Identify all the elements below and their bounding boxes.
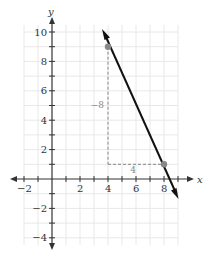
grid bbox=[24, 25, 178, 245]
x-axis-right-arrow-icon bbox=[187, 176, 194, 182]
x-axis-left-arrow-icon bbox=[10, 176, 17, 182]
line-series bbox=[102, 29, 179, 199]
y-tick-label: 2 bbox=[41, 144, 47, 155]
rise-label: −8 bbox=[91, 100, 105, 110]
data-point bbox=[161, 161, 167, 167]
y-tick-label: 6 bbox=[41, 85, 47, 96]
line-up-arrow-icon bbox=[102, 29, 110, 40]
y-axis-down-arrow-icon bbox=[49, 243, 55, 250]
y-tick-label: 4 bbox=[41, 115, 47, 126]
y-tick-label: −2 bbox=[32, 203, 47, 214]
run-label: 4 bbox=[130, 165, 136, 175]
y-axis: y 10 8 6 4 2 −2 −4 bbox=[32, 6, 55, 250]
y-tick-label: −4 bbox=[32, 232, 47, 243]
data-point bbox=[105, 44, 111, 50]
x-tick-label: 4 bbox=[105, 183, 111, 194]
x-tick-label: 2 bbox=[77, 183, 83, 194]
x-tick-label: −2 bbox=[17, 183, 32, 194]
x-tick-label: 6 bbox=[133, 183, 139, 194]
y-axis-up-arrow-icon bbox=[49, 17, 55, 24]
y-tick-label: 8 bbox=[41, 56, 47, 67]
coordinate-plane: x −2 2 4 6 8 y 10 8 6 4 bbox=[0, 0, 211, 254]
x-axis-label: x bbox=[197, 174, 203, 185]
y-axis-label: y bbox=[47, 6, 54, 17]
y-tick-label: 10 bbox=[34, 27, 47, 38]
x-tick-label: 8 bbox=[161, 183, 167, 194]
